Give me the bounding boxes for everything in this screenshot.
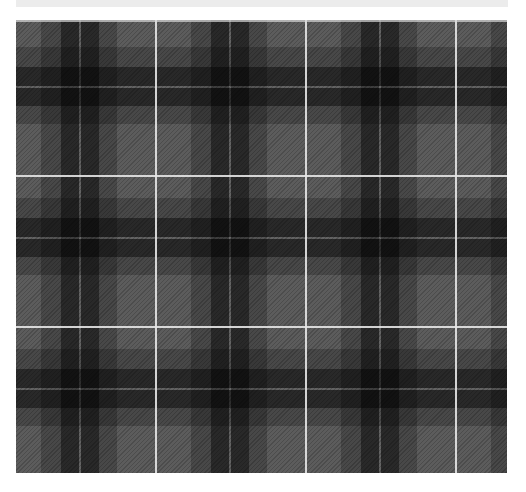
white-pin-lines [16,20,507,473]
tartan-pattern [16,20,507,473]
caption-strip [16,0,508,7]
